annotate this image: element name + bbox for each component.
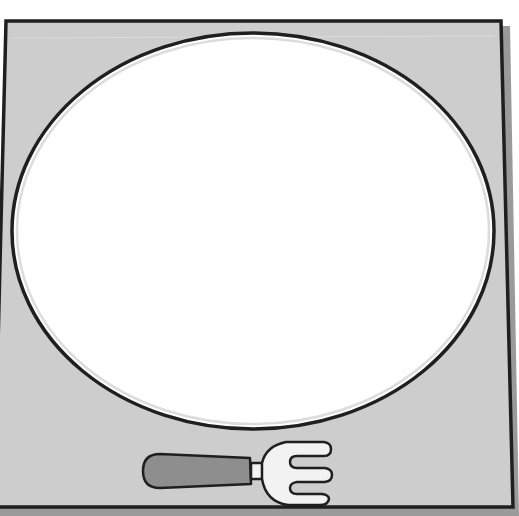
plate-surface [20,41,486,421]
fork-handle [143,454,251,488]
fork-head [262,442,332,505]
placemat-scene [0,0,519,516]
plate [12,33,494,429]
